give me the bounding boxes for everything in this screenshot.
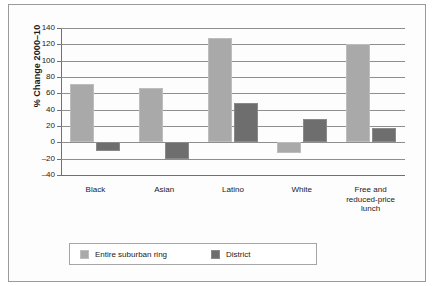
x-category-label: Black	[61, 185, 130, 195]
bar-latino-entire-suburban-ring	[208, 38, 232, 143]
y-tick-mark	[57, 142, 61, 143]
y-tick-mark	[57, 61, 61, 62]
y-tick-label: –40	[29, 171, 55, 179]
gridline	[61, 159, 405, 160]
legend-label: Entire suburban ring	[95, 250, 167, 259]
y-tick-label: 80	[29, 73, 55, 81]
y-axis-title: % Change 2000–10	[32, 0, 42, 141]
bar-white-district	[303, 119, 327, 142]
y-tick-label: –20	[29, 155, 55, 163]
bar-black-entire-suburban-ring	[70, 84, 94, 143]
chart-legend: Entire suburban ringDistrict	[69, 243, 317, 265]
y-tick-mark	[57, 93, 61, 94]
y-axis-line	[61, 28, 62, 175]
plot-area: –40–20020406080100120140	[61, 28, 405, 175]
y-tick-mark	[57, 159, 61, 160]
bar-free-and-district	[372, 128, 396, 142]
legend-swatch-icon	[211, 250, 220, 259]
y-tick-label: 40	[29, 106, 55, 114]
y-tick-label: 20	[29, 122, 55, 130]
gridline	[61, 28, 405, 29]
legend-label: District	[226, 250, 250, 259]
legend-entry: District	[211, 250, 250, 259]
y-tick-label: 60	[29, 89, 55, 97]
gridline	[61, 175, 405, 176]
y-tick-mark	[57, 44, 61, 45]
x-category-label: White	[267, 185, 336, 195]
y-tick-mark	[57, 77, 61, 78]
y-tick-label: 0	[29, 138, 55, 146]
y-tick-label: 100	[29, 57, 55, 65]
bar-asian-entire-suburban-ring	[139, 88, 163, 142]
y-tick-mark	[57, 126, 61, 127]
legend-entry: Entire suburban ring	[80, 250, 167, 259]
bar-free-and-entire-suburban-ring	[346, 44, 370, 142]
legend-swatch-icon	[80, 250, 89, 259]
bar-white-entire-suburban-ring	[277, 142, 301, 153]
bar-latino-district	[234, 103, 258, 142]
x-category-label: Latino	[199, 185, 268, 195]
bar-asian-district	[165, 142, 189, 158]
y-tick-label: 140	[29, 24, 55, 32]
y-tick-mark	[57, 28, 61, 29]
y-tick-mark	[57, 175, 61, 176]
figure-frame: % Change 2000–10 –40–2002040608010012014…	[8, 4, 426, 282]
x-category-label: Free andreduced-pricelunch	[336, 185, 405, 214]
y-tick-label: 120	[29, 40, 55, 48]
bar-black-district	[96, 142, 120, 151]
x-category-label: Asian	[130, 185, 199, 195]
y-tick-mark	[57, 110, 61, 111]
